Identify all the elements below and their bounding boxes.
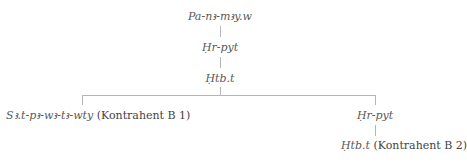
- connector-branch-right: [375, 95, 376, 105]
- node-child-b1: Sꜣ.t-pꜣ-wꜣ-tꜣ-wty (Kontrahent B 1): [6, 109, 190, 123]
- connector-branch-left: [82, 95, 83, 105]
- node-level2: Ḥtb.t: [190, 72, 250, 86]
- child-b1-name: Sꜣ.t-pꜣ-wꜣ-tꜣ-wty: [6, 109, 93, 122]
- child-b1-role: (Kontrahent B 1): [97, 109, 191, 122]
- connector-level1-level2: [220, 57, 221, 68]
- node-level1: Ḥr-pyt: [190, 41, 250, 55]
- connector-root-level1: [220, 26, 221, 37]
- child-b2-role: (Kontrahent B 2): [373, 139, 467, 152]
- connector-right-grandchild: [375, 125, 376, 136]
- node-child-right: Ḥr-pyt: [345, 109, 405, 123]
- node-root: Pa-nꜣ-mꜣy.w: [184, 10, 256, 24]
- branch-horizontal-line: [82, 95, 376, 96]
- node-child-b2: Ḥtb.t (Kontrahent B 2): [341, 139, 467, 153]
- child-b2-name: Ḥtb.t: [341, 139, 370, 152]
- connector-level2-branch: [220, 87, 221, 95]
